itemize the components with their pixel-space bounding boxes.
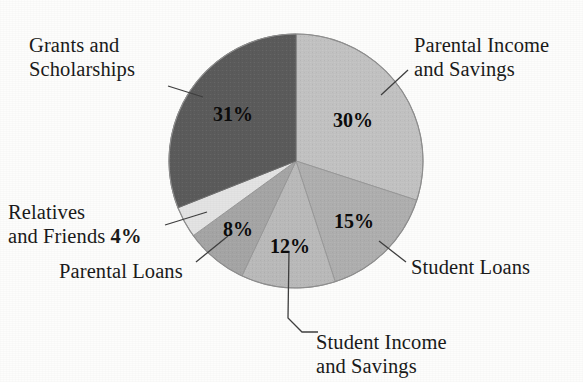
slice-label-line-1: Grants and <box>29 33 135 57</box>
slice-label-line-2: Scholarships <box>29 57 135 81</box>
pie-chart-page: Grants and Scholarships Parental Income … <box>0 0 583 382</box>
slice-percent-grants-and-scholarships: 31% <box>213 103 253 126</box>
slice-label-student-income-and-savings: Student Income and Savings <box>316 330 447 378</box>
slice-label-line-2-text: and Friends <box>8 225 105 247</box>
slice-label-line-1: Student Loans <box>411 255 530 279</box>
slice-label-relatives-and-friends: Relatives and Friends 4% <box>8 200 142 248</box>
slice-label-line-2: and Friends 4% <box>8 224 142 248</box>
slice-percent-student-loans: 15% <box>334 210 374 233</box>
slice-label-line-1: Student Income <box>316 330 447 354</box>
slice-label-line-1: Parental Income <box>414 33 549 57</box>
slice-label-grants-and-scholarships: Grants and Scholarships <box>29 33 135 81</box>
slice-label-student-loans: Student Loans <box>411 255 530 279</box>
slice-label-parental-income-and-savings: Parental Income and Savings <box>414 33 549 81</box>
slice-percent-student-income-and-savings: 12% <box>270 235 310 258</box>
slice-label-line-1: Parental Loans <box>59 259 183 283</box>
slice-percent-parental-loans: 8% <box>223 218 253 241</box>
slice-label-line-1: Relatives <box>8 200 142 224</box>
slice-label-line-2: and Savings <box>414 57 549 81</box>
slice-percent-relatives-and-friends: 4% <box>111 225 142 247</box>
slice-percent-parental-income-and-savings: 30% <box>333 109 373 132</box>
slice-label-line-2: and Savings <box>316 354 447 378</box>
slice-label-parental-loans: Parental Loans <box>59 259 183 283</box>
